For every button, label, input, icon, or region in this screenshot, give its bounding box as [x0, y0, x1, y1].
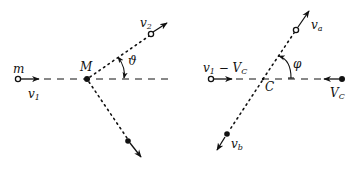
collision-diagram: m M v1 v2 ϑ v1 − VC C VC va vb φ [0, 0, 359, 171]
va-arrow [298, 11, 309, 27]
outgoing-a-open-circle [293, 27, 298, 32]
recoil-M-arrow [130, 143, 141, 157]
recoil-M-filled-dot [125, 138, 131, 144]
label-phi: φ [293, 57, 302, 71]
particle-m-open-circle [15, 76, 20, 81]
vb-arrow [217, 137, 225, 150]
label-C: C [265, 80, 274, 94]
label-Vc: VC [330, 86, 345, 101]
label-v2: v2 [140, 16, 152, 31]
label-v1: v1 [28, 87, 40, 102]
label-v1-minus-Vc: v1 − VC [203, 61, 247, 76]
cm-frame-panel: v1 − VC C VC va vb φ [203, 11, 345, 152]
outgoing-b-filled-dot [224, 131, 230, 137]
label-M: M [79, 60, 93, 74]
outgoing-b-dotted-path [229, 81, 262, 131]
v2-arrow [153, 23, 167, 32]
scattered-m-open-circle [148, 31, 153, 36]
recoil-M-dotted-path [89, 82, 127, 138]
phi-angle-arc [279, 56, 291, 78]
scattered-m-dotted-path [90, 36, 149, 77]
theta-angle-arc [118, 57, 124, 78]
lab-frame-panel: m M v1 v2 ϑ [13, 16, 174, 157]
label-vb: vb [231, 137, 243, 152]
outgoing-a-dotted-path [263, 33, 294, 79]
particle-M-filled-dot-cm [339, 76, 345, 82]
label-theta: ϑ [128, 54, 137, 68]
particle-m-open-circle-cm [208, 76, 213, 81]
particle-M-filled-dot [84, 76, 90, 82]
label-m: m [13, 62, 24, 76]
label-va: va [311, 18, 323, 33]
